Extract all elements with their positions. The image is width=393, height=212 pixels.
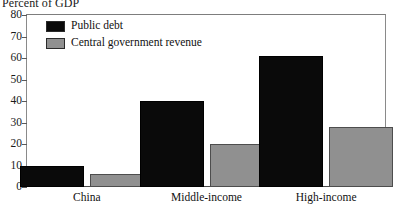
- x-axis-label-china: China: [27, 192, 147, 204]
- x-axis-label-middle-income: Middle-income: [147, 192, 267, 204]
- bar-middle-income-public-debt: [140, 101, 204, 187]
- y-axis-tick-label: 0: [0, 181, 22, 193]
- y-axis-tick-label: 50: [0, 74, 22, 86]
- bar-high-income-central-government-revenue: [329, 127, 393, 187]
- x-axis-label-high-income: High-income: [266, 192, 386, 204]
- y-axis-tick-label: 70: [0, 31, 22, 43]
- bar-china-public-debt: [20, 166, 84, 188]
- y-axis-tick-label: 20: [0, 138, 22, 150]
- y-axis-tick: [22, 187, 27, 188]
- y-axis-tick-label: 10: [0, 160, 22, 172]
- bar-high-income-public-debt: [259, 56, 323, 187]
- y-axis-tick-label: 30: [0, 117, 22, 129]
- y-axis-tick-label: 60: [0, 52, 22, 64]
- y-axis-tick-label: 80: [0, 9, 22, 21]
- y-axis-tick-label: 40: [0, 95, 22, 107]
- bars-layer: [27, 15, 386, 187]
